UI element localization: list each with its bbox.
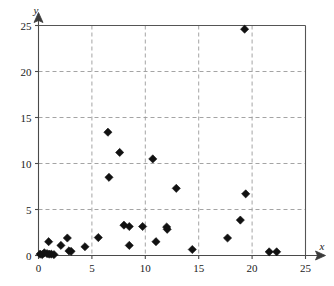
data-point-marker [223, 234, 231, 242]
grid-layer [39, 26, 306, 256]
data-point-marker [265, 248, 273, 256]
plot-frame [34, 13, 326, 261]
data-point-marker [242, 190, 250, 198]
scatter-plot-figure: 05101520250510152025 yx [0, 0, 334, 286]
x-tick-label: 20 [247, 262, 259, 274]
data-point-marker [188, 245, 196, 253]
x-tick-label: 0 [36, 262, 42, 274]
data-point-marker [104, 128, 112, 136]
data-point-marker [57, 241, 65, 249]
data-point-marker [149, 155, 157, 163]
data-point-marker [152, 238, 160, 246]
data-point-marker [105, 173, 113, 181]
x-tick-label: 5 [89, 262, 95, 274]
data-point-marker [94, 233, 102, 241]
data-point-marker [236, 216, 244, 224]
y-axis-label: y [33, 4, 39, 16]
y-tick-label: 10 [21, 158, 33, 170]
data-point-marker [241, 25, 249, 33]
data-point-marker [81, 243, 89, 251]
x-tick-label: 10 [140, 262, 152, 274]
y-tick-label: 25 [21, 20, 33, 32]
x-tick-label: 15 [193, 262, 205, 274]
x-axis-label: x [319, 240, 325, 252]
data-point-marker [63, 234, 71, 242]
y-tick-label: 15 [21, 112, 33, 124]
data-point-marker [273, 248, 281, 256]
data-point-marker [116, 148, 124, 156]
axis-names: yx [33, 4, 325, 252]
y-tick-label: 5 [26, 204, 32, 216]
tick-marks [35, 26, 306, 260]
tick-labels: 05101520250510152025 [21, 20, 312, 274]
data-point-marker [125, 241, 133, 249]
y-tick-label: 20 [21, 66, 33, 78]
x-tick-label: 25 [300, 262, 312, 274]
plot-canvas: 05101520250510152025 yx [0, 0, 334, 286]
data-point-marker [172, 184, 180, 192]
data-point-marker [45, 238, 53, 246]
y-tick-label: 0 [26, 250, 32, 262]
data-points [36, 25, 281, 259]
